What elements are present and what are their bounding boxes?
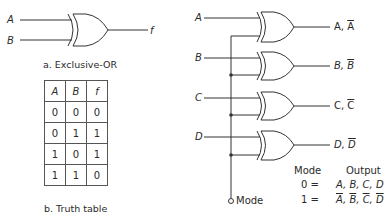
a-bar: A bbox=[336, 194, 343, 205]
caption-truth-table: b. Truth table bbox=[44, 203, 107, 214]
output-label-f: f bbox=[150, 25, 154, 36]
output-complement: B bbox=[347, 60, 354, 71]
cell: 0 bbox=[87, 102, 108, 123]
output-complement: D bbox=[348, 139, 356, 150]
output-header: Output bbox=[346, 165, 381, 176]
cell: 0 bbox=[66, 144, 87, 165]
cell: 0 bbox=[66, 102, 87, 123]
cell: 1 bbox=[87, 123, 108, 144]
table-row: 1 0 1 bbox=[45, 144, 108, 165]
mode-header: Mode bbox=[294, 165, 321, 176]
cell: 1 bbox=[87, 144, 108, 165]
input-label-b: B bbox=[195, 52, 202, 63]
table-row: 1 1 0 bbox=[45, 165, 108, 186]
output-plain: A, bbox=[334, 21, 344, 32]
input-label-d: D bbox=[195, 131, 203, 142]
input-label-c: C bbox=[195, 92, 202, 103]
output-complement: A bbox=[347, 21, 354, 32]
cell: 1 bbox=[66, 123, 87, 144]
cell: 0 bbox=[45, 123, 66, 144]
mode-1: 1 = bbox=[301, 194, 319, 205]
output-plain: B, bbox=[334, 60, 344, 71]
output-complement: C bbox=[347, 100, 354, 111]
cell: 0 bbox=[45, 102, 66, 123]
input-label-a: A bbox=[7, 14, 14, 25]
output-plain: C, bbox=[334, 100, 344, 111]
d-bar: D bbox=[376, 194, 384, 205]
cell: 0 bbox=[87, 165, 108, 186]
output-label-d: D, D bbox=[334, 139, 356, 150]
table-header-row: A B f bbox=[45, 81, 108, 102]
mode-1-output: A, B, C, D bbox=[336, 194, 384, 205]
truth-table: A B f 0 0 0 0 1 1 1 0 1 1 1 0 bbox=[44, 80, 108, 186]
mode-input-label: Mode bbox=[236, 195, 263, 206]
caption-exclusive-or: a. Exclusive-OR bbox=[43, 59, 117, 70]
mode-0: 0 = bbox=[301, 179, 319, 190]
c-bar: C bbox=[363, 194, 370, 205]
b-bar: B bbox=[349, 194, 356, 205]
cell: 1 bbox=[45, 144, 66, 165]
table-row: 0 1 1 bbox=[45, 123, 108, 144]
header-f: f bbox=[87, 81, 108, 102]
input-label-a: A bbox=[195, 12, 202, 23]
output-label-b: B, B bbox=[334, 60, 354, 71]
mode-0-output: A, B, C, D bbox=[336, 179, 384, 190]
header-b: B bbox=[66, 81, 87, 102]
output-label-a: A, A bbox=[334, 21, 354, 32]
cell: 1 bbox=[66, 165, 87, 186]
output-plain: D, bbox=[334, 139, 345, 150]
input-label-b: B bbox=[7, 35, 14, 46]
header-a: A bbox=[45, 81, 66, 102]
cell: 1 bbox=[45, 165, 66, 186]
table-row: 0 0 0 bbox=[45, 102, 108, 123]
output-label-c: C, C bbox=[334, 100, 354, 111]
